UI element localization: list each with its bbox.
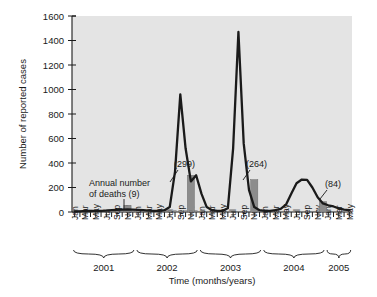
x-tick-label: Jul (228, 209, 238, 220)
y-tick-label: 1400 (43, 35, 64, 46)
x-tick-label: Mar (80, 205, 90, 220)
y-tick-1400: 1400 (43, 35, 76, 46)
baseline-bar (126, 211, 129, 212)
y-tick-label: 400 (48, 158, 64, 169)
x-axis-year-braces: 20012002200320042005 (74, 250, 351, 273)
baseline-bar (184, 211, 187, 212)
annual-deaths-line1: Annual number (89, 178, 150, 188)
y-tick-1600: 1600 (43, 11, 76, 22)
annual-deaths-line2: of deaths (9) (89, 189, 140, 199)
x-tick-label: Sep (239, 205, 249, 220)
year-brace (327, 250, 351, 258)
year-brace (200, 250, 260, 258)
year-label: 2004 (283, 262, 304, 273)
year-label: 2002 (157, 262, 178, 273)
x-tick-label: Sep (302, 205, 312, 220)
baseline-bar (131, 211, 134, 212)
y-tick-label: 1200 (43, 60, 64, 71)
y-axis-ticks: 1600 1400 1200 1000 800 600 400 200 0 (43, 11, 76, 218)
deaths-label-2002: (299) (174, 159, 195, 169)
y-tick-label: 600 (48, 133, 64, 144)
x-tick-label: Mar (271, 205, 281, 220)
baseline-bar (189, 211, 192, 212)
y-tick-label: 200 (48, 182, 64, 193)
year-brace (137, 250, 197, 258)
x-tick-label: May (345, 203, 355, 220)
x-tick-label: Jul (292, 209, 302, 220)
baseline-bar (173, 211, 176, 212)
x-tick-label: Jan (260, 206, 270, 220)
year-label: 2003 (220, 262, 241, 273)
x-tick-label: Jan (197, 206, 207, 220)
x-tick-label: Sep (176, 205, 186, 220)
x-tick-label: Jan (70, 206, 80, 220)
epidemic-cases-line-chart: 1600 1400 1200 1000 800 600 400 200 0 Nu… (0, 0, 377, 297)
x-tick-label: Jan (133, 206, 143, 220)
deaths-label-2004: (84) (325, 179, 341, 189)
baseline-bar (179, 211, 182, 212)
y-tick-label: 1000 (43, 84, 64, 95)
baseline-bar (168, 211, 171, 212)
x-axis-title: Time (months/years) (169, 275, 256, 286)
year-label: 2005 (328, 262, 349, 273)
y-tick-1200: 1200 (43, 60, 76, 71)
x-tick-label: Sep (112, 205, 122, 220)
baseline-bar (195, 211, 198, 212)
year-label: 2001 (93, 262, 114, 273)
y-axis-title: Number of reported cases (17, 59, 28, 169)
year-brace (264, 250, 324, 258)
y-tick-label: 800 (48, 109, 64, 120)
year-brace (74, 250, 134, 258)
y-tick-label: 0 (59, 207, 64, 218)
y-tick-1000: 1000 (43, 84, 76, 95)
y-tick-label: 1600 (43, 11, 64, 22)
deaths-label-2003: (264) (246, 159, 267, 169)
chart-figure: 1600 1400 1200 1000 800 600 400 200 0 Nu… (0, 0, 377, 297)
x-tick-label: Mar (144, 205, 154, 220)
